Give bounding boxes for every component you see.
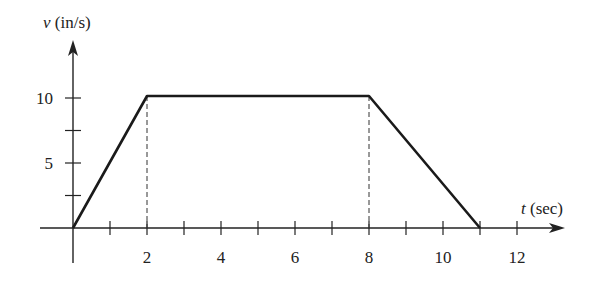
labels: v (in/s) t (sec) 24681012510 — [36, 13, 563, 267]
x-tick-label: 8 — [365, 248, 374, 267]
x-tick-label: 2 — [143, 248, 152, 267]
axes — [40, 40, 565, 263]
ticks — [65, 98, 517, 235]
velocity-line — [73, 96, 480, 228]
x-axis-label: t (sec) — [521, 199, 563, 218]
velocity-time-chart: v (in/s) t (sec) 24681012510 — [0, 0, 601, 284]
chart-root: v (in/s) t (sec) 24681012510 — [0, 0, 601, 284]
x-tick-label: 12 — [509, 248, 526, 267]
dashed-guides — [147, 96, 369, 228]
x-tick-label: 4 — [217, 248, 226, 267]
series-velocity — [73, 96, 480, 228]
y-axis-label: v (in/s) — [43, 13, 91, 32]
x-tick-label: 6 — [291, 248, 300, 267]
y-tick-label: 10 — [36, 89, 53, 108]
y-tick-label: 5 — [45, 154, 54, 173]
x-tick-label: 10 — [435, 248, 452, 267]
